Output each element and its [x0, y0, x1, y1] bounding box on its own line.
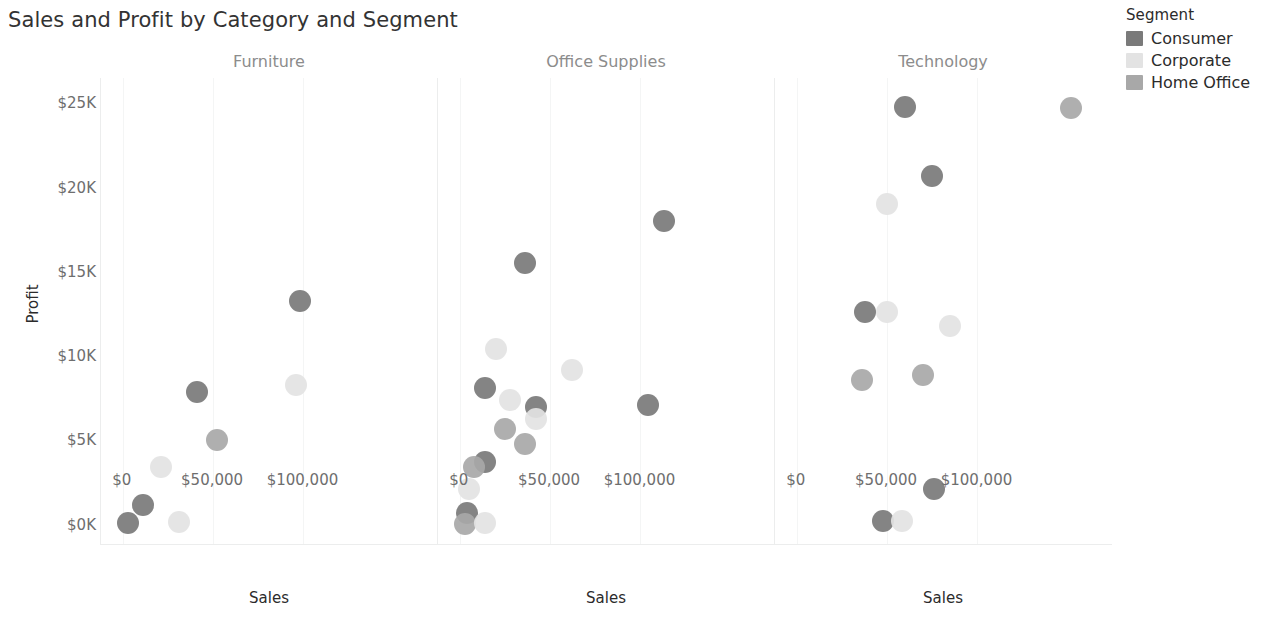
scatter-point[interactable] [285, 374, 307, 396]
x-axis-tick-label: $50,000 [518, 471, 580, 489]
scatter-point[interactable] [561, 359, 583, 381]
chart-root: Sales and Profit by Category and Segment… [0, 0, 1280, 628]
scatter-point[interactable] [894, 96, 916, 118]
legend-swatch-icon [1126, 53, 1143, 68]
x-axis-tick-label: $0 [449, 471, 468, 489]
x-axis-title: Sales [437, 589, 775, 607]
x-axis-tick-label: $0 [786, 471, 805, 489]
legend: Segment ConsumerCorporateHome Office [1126, 6, 1250, 93]
y-axis-tick-labels: $0K$5K$10K$15K$20K$25K [0, 0, 96, 628]
scatter-point[interactable] [653, 210, 675, 232]
panel-title: Technology [774, 52, 1112, 71]
scatter-point[interactable] [132, 494, 154, 516]
y-axis-tick-label: $15K [18, 263, 96, 281]
legend-item-label: Home Office [1151, 73, 1250, 92]
scatter-point[interactable] [289, 290, 311, 312]
x-axis-tick-label: $0 [112, 471, 131, 489]
scatter-point[interactable] [474, 377, 496, 399]
panel-title: Office Supplies [437, 52, 775, 71]
x-axis-tick-label: $100,000 [267, 471, 339, 489]
scatter-point[interactable] [514, 433, 536, 455]
scatter-point[interactable] [186, 381, 208, 403]
scatter-point[interactable] [939, 315, 961, 337]
scatter-point[interactable] [499, 389, 521, 411]
scatter-point[interactable] [912, 364, 934, 386]
scatter-point[interactable] [876, 193, 898, 215]
scatter-point[interactable] [525, 408, 547, 430]
y-axis-tick-label: $5K [18, 431, 96, 449]
scatter-point[interactable] [117, 512, 139, 534]
scatter-point[interactable] [454, 513, 476, 535]
x-axis-tick-label: $50,000 [181, 471, 243, 489]
legend-swatch-icon [1126, 75, 1143, 90]
scatter-point[interactable] [921, 165, 943, 187]
x-axis-title: Sales [774, 589, 1112, 607]
scatter-point[interactable] [168, 511, 190, 533]
scatter-point[interactable] [1060, 97, 1082, 119]
y-axis-tick-label: $20K [18, 179, 96, 197]
scatter-point[interactable] [891, 510, 913, 532]
legend-title: Segment [1126, 6, 1250, 24]
x-axis-title: Sales [100, 589, 438, 607]
scatter-point[interactable] [514, 252, 536, 274]
legend-swatch-icon [1126, 31, 1143, 46]
legend-item-home-office[interactable]: Home Office [1126, 71, 1250, 93]
y-axis-tick-label: $10K [18, 347, 96, 365]
y-axis-tick-label: $0K [18, 516, 96, 534]
scatter-point[interactable] [485, 338, 507, 360]
x-axis-tick-label: $50,000 [855, 471, 917, 489]
x-axis-tick-label: $100,000 [941, 471, 1013, 489]
scatter-point[interactable] [206, 429, 228, 451]
scatter-point[interactable] [851, 369, 873, 391]
scatter-point[interactable] [494, 418, 516, 440]
scatter-point[interactable] [876, 301, 898, 323]
legend-item-corporate[interactable]: Corporate [1126, 49, 1250, 71]
scatter-point[interactable] [637, 394, 659, 416]
scatter-point[interactable] [474, 512, 496, 534]
legend-item-label: Corporate [1151, 51, 1231, 70]
x-axis-tick-label: $100,000 [604, 471, 676, 489]
y-axis-tick-label: $25K [18, 94, 96, 112]
panel-title: Furniture [100, 52, 438, 71]
legend-item-consumer[interactable]: Consumer [1126, 27, 1250, 49]
scatter-point[interactable] [150, 456, 172, 478]
scatter-point[interactable] [854, 301, 876, 323]
legend-item-label: Consumer [1151, 29, 1233, 48]
